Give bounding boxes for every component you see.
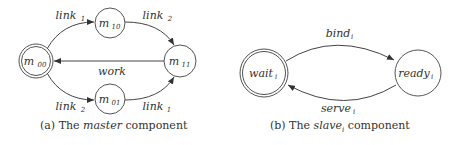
slave-diagram: wait i ready i bind i serve i <box>240 27 441 116</box>
label-link1-top: link 1 <box>56 9 86 23</box>
svg-text:link: link <box>56 9 77 22</box>
svg-text:i: i <box>431 73 433 81</box>
state-wait: wait i <box>240 49 288 97</box>
label-link2-top: link 2 <box>143 9 173 23</box>
svg-text:00: 00 <box>38 61 47 69</box>
svg-text:m: m <box>24 55 34 68</box>
caption-master-prefix: (a) The <box>40 119 80 132</box>
edge-m01-m11 <box>125 77 174 100</box>
svg-text:serve: serve <box>321 102 352 115</box>
svg-text:10: 10 <box>112 23 121 31</box>
edge-m00-m10 <box>47 22 94 49</box>
svg-text:bind: bind <box>326 27 351 40</box>
svg-text:i: i <box>353 108 355 116</box>
svg-text:work: work <box>98 65 126 78</box>
caption-master-suffix: component <box>125 119 187 132</box>
caption-slave-name: slavei <box>314 119 345 132</box>
svg-text:2: 2 <box>167 15 173 23</box>
state-m11: m 11 <box>164 45 196 77</box>
caption-master-name: master <box>83 119 122 132</box>
edge-wait-ready <box>286 45 394 61</box>
master-diagram: m 00 m 10 m 01 m 11 link 1 link 2 work <box>19 8 196 114</box>
svg-text:1: 1 <box>167 106 171 114</box>
state-m01: m 01 <box>95 84 125 114</box>
svg-text:m: m <box>99 17 109 30</box>
caption-master: (a) The master component <box>40 119 187 132</box>
svg-text:11: 11 <box>182 61 191 69</box>
svg-text:01: 01 <box>112 99 121 107</box>
svg-text:link: link <box>56 100 77 113</box>
label-bind: bind i <box>326 27 353 41</box>
svg-text:i: i <box>275 73 277 81</box>
state-ready: ready i <box>395 50 441 96</box>
svg-text:link: link <box>143 9 164 22</box>
caption-slave-suffix: component <box>348 119 410 132</box>
caption-slave-prefix: (b) The <box>270 119 310 132</box>
svg-text:wait: wait <box>249 67 273 80</box>
svg-text:m: m <box>99 93 109 106</box>
svg-text:1: 1 <box>81 15 85 23</box>
state-m00: m 00 <box>19 44 53 78</box>
label-link1-bottom: link 1 <box>143 100 172 114</box>
state-m10: m 10 <box>95 8 125 38</box>
svg-text:link: link <box>143 100 164 113</box>
svg-text:ready: ready <box>398 67 430 80</box>
label-work: work <box>98 65 126 78</box>
edge-m00-m01 <box>47 73 94 100</box>
svg-text:2: 2 <box>80 106 86 114</box>
caption-slave: (b) The slavei component <box>270 119 410 134</box>
label-serve: serve i <box>321 102 355 116</box>
edge-m10-m11 <box>125 22 174 45</box>
svg-text:m: m <box>169 55 179 68</box>
svg-text:i: i <box>351 33 353 41</box>
label-link2-bottom: link 2 <box>56 100 86 114</box>
edge-ready-wait <box>288 85 396 101</box>
